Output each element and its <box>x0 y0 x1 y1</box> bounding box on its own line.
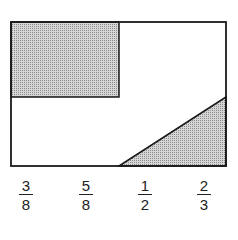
numerator: 5 <box>79 178 93 195</box>
numerator: 1 <box>138 178 152 195</box>
shaded-top-left-rectangle <box>11 22 119 97</box>
denominator: 8 <box>14 195 38 212</box>
choice-fraction-4: 2 3 <box>192 178 216 212</box>
choice-fraction-3: 1 2 <box>133 178 157 212</box>
shaded-bottom-right-triangle <box>119 97 226 166</box>
numerator: 2 <box>197 178 211 195</box>
choice-fraction-2: 5 8 <box>74 178 98 212</box>
denominator: 3 <box>192 195 216 212</box>
denominator: 2 <box>133 195 157 212</box>
choice-fraction-1: 3 8 <box>14 178 38 212</box>
denominator: 8 <box>74 195 98 212</box>
numerator: 3 <box>19 178 33 195</box>
